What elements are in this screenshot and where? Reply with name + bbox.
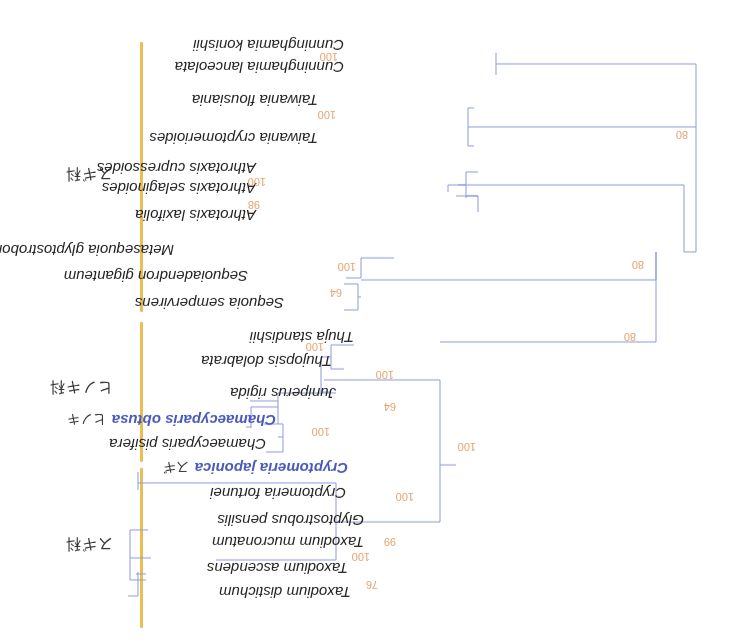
support-value: 100 <box>320 51 338 62</box>
taxon-label: Chamaecyparis pisifera <box>109 436 266 452</box>
support-value: 76 <box>366 579 378 590</box>
taxon-label: Juniperus rigida <box>230 385 336 401</box>
taxon-label: Cryptomeria fortunei <box>210 485 346 501</box>
support-value: 100 <box>352 551 370 562</box>
taxon-label: Taiwania cryptomerioides <box>149 130 318 146</box>
support-value: 100 <box>376 369 394 380</box>
taxon-label: Taxodium ascendens <box>207 560 348 576</box>
support-value: 100 <box>318 109 336 120</box>
taxon-label: Taxodium mucronatum <box>212 534 364 550</box>
taxon-name: Cryptomeria japonica <box>195 460 348 477</box>
taxon-label: Sequoia sempervirens <box>135 295 284 311</box>
support-value: 99 <box>384 536 396 547</box>
support-value: 80 <box>624 331 636 342</box>
taxon-label: Sequoiadendron giganteum <box>64 268 248 284</box>
support-value: 80 <box>632 259 644 270</box>
common-name: ヒノキ <box>67 412 106 427</box>
taxon-label: Athrotaxis laxifolia <box>135 207 256 223</box>
tree-branches <box>0 0 736 642</box>
taxon-label: Athrotaxis cupressoides <box>97 160 256 176</box>
support-value: 80 <box>676 129 688 140</box>
taxon-name: Chamaecyparis obtusa <box>112 412 276 429</box>
taxon-label: Metasequoia glyptostroboides <box>0 242 174 258</box>
support-value: 100 <box>396 491 414 502</box>
support-value: 64 <box>330 287 342 298</box>
support-value: 100 <box>458 441 476 452</box>
taxon-label: Taiwania flousiania <box>192 92 318 108</box>
taxon-label: Thujopsis dolabrata <box>201 353 332 369</box>
support-value: 98 <box>248 199 260 210</box>
taxon-label: Taxodium distichum <box>219 584 351 600</box>
common-name: スギ <box>163 460 189 475</box>
taxon-label: Glyptostrobus pensilis <box>217 512 364 528</box>
support-value: 100 <box>248 176 266 187</box>
taxon-label: Cunninghamia lanceolata <box>175 59 344 75</box>
phylogenetic-tree-figure: スギ科 ヒノキ科 スギ科 Cunninghamia konishii Cunni… <box>0 0 736 642</box>
support-value: 100 <box>306 341 324 352</box>
taxon-label-highlight: Cryptomeria japonicaスギ <box>163 459 348 476</box>
support-value: 100 <box>312 426 330 437</box>
taxon-label-highlight: Chamaecyparis obtusaヒノキ <box>67 411 276 428</box>
taxon-label: Thuja standishii <box>250 329 354 345</box>
support-value: 64 <box>384 401 396 412</box>
support-value: 100 <box>338 261 356 272</box>
taxon-label: Athrotaxis selaginoides <box>102 180 256 196</box>
